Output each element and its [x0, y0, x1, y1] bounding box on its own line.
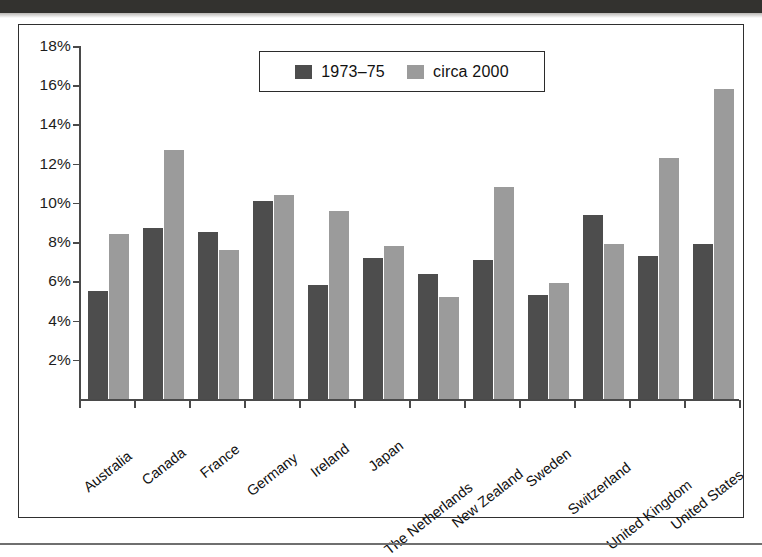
x-axis-tick — [464, 400, 466, 408]
page-top-band-shadow — [0, 13, 762, 18]
x-axis-tick — [739, 400, 741, 408]
legend-swatch-dark-icon — [295, 65, 312, 79]
legend-label-1973-75: 1973–75 — [321, 63, 385, 81]
bar — [714, 89, 734, 399]
bar-series-layer — [79, 46, 739, 399]
bar-group — [143, 46, 184, 399]
x-axis-tick — [79, 400, 81, 408]
x-axis-category-label: Ireland — [342, 413, 387, 453]
y-axis-tick-label: 10% — [19, 194, 71, 212]
x-axis-tick — [519, 400, 521, 408]
x-axis-tick — [684, 400, 686, 408]
x-axis-tick — [409, 400, 411, 408]
x-axis-tick — [299, 400, 301, 408]
bar — [604, 244, 624, 399]
y-axis-tick-label: 16% — [19, 76, 71, 94]
bar-group — [418, 46, 459, 399]
bar — [198, 232, 218, 399]
bar-group — [528, 46, 569, 399]
x-axis-category-label-text: Germany — [244, 450, 301, 499]
bar — [418, 274, 438, 400]
page-bottom-rule — [0, 543, 762, 545]
y-axis-tick-label: 18% — [19, 37, 71, 55]
bar-group — [308, 46, 349, 399]
bar-group — [693, 46, 734, 399]
chart-legend: 1973–75 circa 2000 — [259, 51, 545, 92]
bar — [363, 258, 383, 399]
bar — [583, 215, 603, 399]
bar — [274, 195, 294, 399]
chart-frame: 2%4%6%8%10%12%14%16%18% AustraliaCanadaF… — [18, 24, 744, 518]
bar — [439, 297, 459, 399]
legend-label-circa-2000: circa 2000 — [433, 63, 509, 81]
legend-entry-1973-75: 1973–75 — [295, 63, 385, 81]
bar — [329, 211, 349, 399]
legend-swatch-light-icon — [407, 65, 424, 79]
bar — [143, 228, 163, 399]
x-axis-tick — [574, 400, 576, 408]
bar — [549, 283, 569, 399]
bar — [638, 256, 658, 399]
y-axis-tick-label: 4% — [19, 312, 71, 330]
page-top-band — [0, 0, 762, 13]
bar-group — [88, 46, 129, 399]
x-axis-category-label-text: Australia — [81, 448, 135, 495]
y-axis-tick-label: 2% — [19, 351, 71, 369]
x-axis-category-label: Switzerland — [624, 413, 693, 472]
y-axis-tick-label: 12% — [19, 155, 71, 173]
bar — [253, 201, 273, 399]
x-axis-category-label-text: Switzerland — [565, 459, 634, 518]
x-axis-category-label: France — [233, 413, 278, 453]
x-axis-category-label-text: France — [197, 441, 242, 481]
bar-group — [638, 46, 679, 399]
chart-plot-area: 2%4%6%8%10%12%14%16%18% AustraliaCanadaF… — [19, 25, 745, 519]
bar-group — [198, 46, 239, 399]
legend-entry-circa-2000: circa 2000 — [407, 63, 509, 81]
bar — [384, 246, 404, 399]
x-axis-tick — [134, 400, 136, 408]
bar — [219, 250, 239, 399]
x-axis-tick — [354, 400, 356, 408]
bar — [88, 291, 108, 399]
x-axis-tick — [629, 400, 631, 408]
x-axis-tick — [244, 400, 246, 408]
bar — [109, 234, 129, 399]
bar — [473, 260, 493, 399]
bar — [164, 150, 184, 399]
x-axis-tick — [189, 400, 191, 408]
y-axis-tick-label: 14% — [19, 115, 71, 133]
bar — [528, 295, 548, 399]
bar — [693, 244, 713, 399]
y-axis-tick-label: 8% — [19, 233, 71, 251]
bar-group — [583, 46, 624, 399]
y-axis-tick-label: 6% — [19, 272, 71, 290]
bar — [659, 158, 679, 399]
bar-group — [363, 46, 404, 399]
bar — [494, 187, 514, 399]
bar — [308, 285, 328, 399]
bar-group — [253, 46, 294, 399]
x-axis-category-label: Japan — [396, 413, 437, 450]
x-axis-category-label-text: Japan — [365, 437, 406, 474]
bar-group — [473, 46, 514, 399]
